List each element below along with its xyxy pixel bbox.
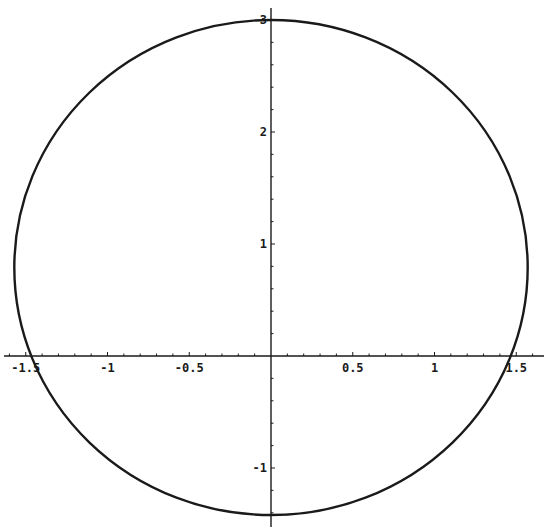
x-tick-label: -0.5 [175, 361, 204, 375]
x-tick-label: -1 [100, 361, 114, 375]
axes [4, 8, 544, 527]
y-tick-label: -1 [253, 461, 267, 475]
y-tick-label: 1 [260, 237, 267, 251]
y-tick-label: 2 [260, 125, 267, 139]
x-tick-label: 1 [431, 361, 438, 375]
x-tick-label: 1.5 [505, 361, 527, 375]
x-tick-label: -1.5 [11, 361, 40, 375]
tick-labels: -1.5-1-0.50.511.5-1123 [11, 13, 527, 475]
x-tick-label: 0.5 [342, 361, 364, 375]
plot-canvas: -1.5-1-0.50.511.5-1123 [0, 0, 546, 529]
y-tick-label: 3 [260, 13, 267, 27]
